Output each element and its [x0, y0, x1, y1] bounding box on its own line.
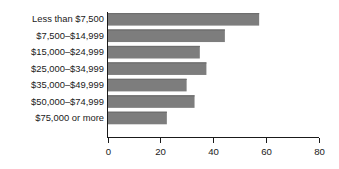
category-label: $35,000–$49,999	[31, 79, 104, 90]
bar-top-edge	[108, 13, 260, 14]
tick-label: 40	[208, 146, 219, 157]
category-label: $25,000–$34,999	[31, 63, 104, 74]
chart-canvas: Less than $7,500$7,500–$14,999$15,000–$2…	[0, 0, 339, 169]
category-axis-labels: Less than $7,500$7,500–$14,999$15,000–$2…	[31, 13, 104, 123]
tick-label: 80	[314, 146, 325, 157]
tick-label: 60	[261, 146, 272, 157]
bar-top-edge	[108, 95, 195, 96]
bar	[108, 112, 167, 125]
bar	[108, 46, 200, 59]
tick-label: 0	[106, 146, 111, 157]
tick-label: 20	[155, 146, 166, 157]
bar-top-edge	[108, 79, 187, 80]
bar-top-edge	[108, 62, 207, 63]
bar	[108, 13, 260, 26]
category-label: $7,500–$14,999	[36, 30, 104, 41]
bar-top-edge	[108, 112, 167, 113]
category-label: $15,000–$24,999	[31, 46, 104, 57]
bar	[108, 79, 187, 92]
bar-top-edge	[108, 29, 225, 30]
bar	[108, 95, 195, 108]
bar	[108, 62, 207, 75]
category-label: $50,000–$74,999	[31, 96, 104, 107]
bar-top-edge	[108, 46, 200, 47]
category-label: $75,000 or more	[35, 112, 104, 123]
bar-chart: Less than $7,500$7,500–$14,999$15,000–$2…	[0, 0, 339, 169]
bar	[108, 29, 225, 42]
category-label: Less than $7,500	[32, 13, 104, 24]
